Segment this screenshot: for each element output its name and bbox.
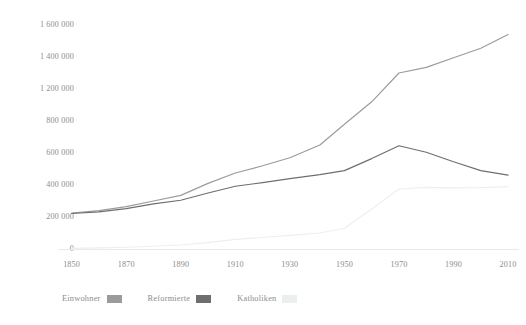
- legend-item-katholiken[interactable]: Katholiken: [237, 295, 297, 303]
- x-axis-tick-label: 1910: [212, 261, 258, 269]
- chart-legend: EinwohnerReformierteKatholiken: [62, 295, 297, 303]
- legend-label: Reformierte: [148, 295, 191, 303]
- legend-item-einwohner[interactable]: Einwohner: [62, 295, 122, 303]
- legend-label: Einwohner: [62, 295, 101, 303]
- series-layer: [72, 35, 508, 249]
- x-axis-tick-label: 1950: [321, 261, 367, 269]
- x-axis-tick-label: 2010: [485, 261, 526, 269]
- x-axis-tick-label: 1890: [158, 261, 204, 269]
- series-line-katholiken: [72, 187, 508, 249]
- series-line-reformierte: [72, 146, 508, 214]
- legend-label: Katholiken: [237, 295, 276, 303]
- population-line-chart: 0200 000400 000600 000800 0001 200 0001 …: [0, 0, 526, 325]
- legend-color-swatch: [107, 295, 122, 303]
- legend-item-reformierte[interactable]: Reformierte: [148, 295, 212, 303]
- legend-color-swatch: [196, 295, 211, 303]
- plot-area: [0, 0, 526, 325]
- x-axis-tick-label: 1990: [431, 261, 477, 269]
- series-line-einwohner: [72, 35, 508, 213]
- x-axis-tick-label: 1930: [267, 261, 313, 269]
- x-axis-tick-label: 1970: [376, 261, 422, 269]
- legend-color-swatch: [282, 295, 297, 303]
- x-axis-tick-label: 1850: [49, 261, 95, 269]
- x-axis-tick-label: 1870: [103, 261, 149, 269]
